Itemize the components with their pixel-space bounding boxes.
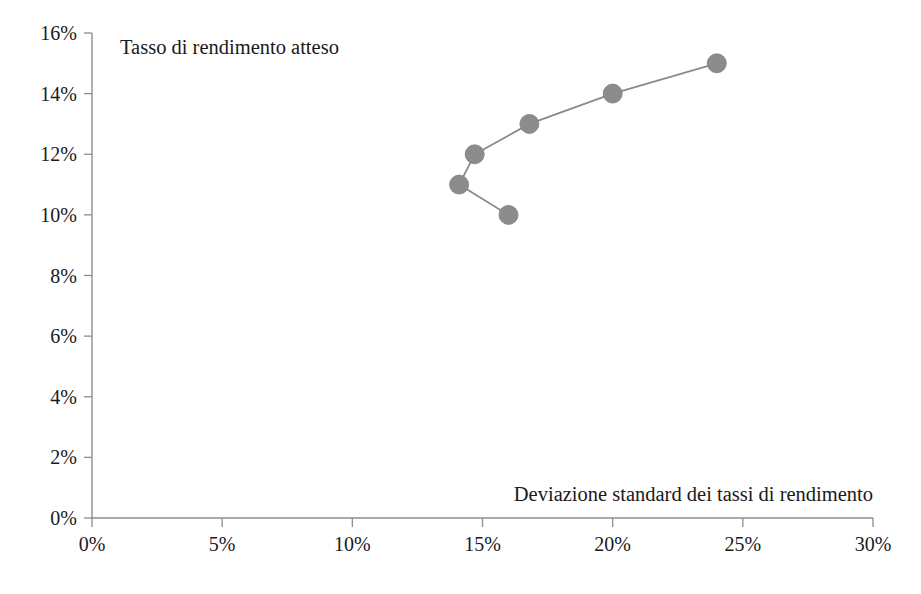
x-tick-label: 10% bbox=[334, 533, 371, 555]
x-tick-label: 5% bbox=[209, 533, 236, 555]
y-tick-label: 14% bbox=[40, 83, 77, 105]
x-tick-label: 25% bbox=[724, 533, 761, 555]
data-point[interactable] bbox=[465, 145, 484, 164]
data-point[interactable] bbox=[603, 84, 622, 103]
y-axis-ticks bbox=[84, 33, 92, 518]
y-tick-label: 8% bbox=[50, 265, 77, 287]
scatter-chart: 0%2%4%6%8%10%12%14%16% 0%5%10%15%20%25%3… bbox=[0, 0, 921, 594]
data-point[interactable] bbox=[499, 205, 518, 224]
x-axis-title: Deviazione standard dei tassi di rendime… bbox=[514, 483, 873, 505]
chart-container: 0%2%4%6%8%10%12%14%16% 0%5%10%15%20%25%3… bbox=[0, 0, 921, 594]
y-tick-label: 0% bbox=[50, 507, 77, 529]
x-tick-label: 15% bbox=[464, 533, 501, 555]
x-tick-label: 0% bbox=[79, 533, 106, 555]
x-axis-tick-labels: 0%5%10%15%20%25%30% bbox=[79, 533, 892, 555]
y-axis-tick-labels: 0%2%4%6%8%10%12%14%16% bbox=[40, 22, 77, 529]
x-tick-label: 20% bbox=[594, 533, 631, 555]
data-point[interactable] bbox=[520, 114, 539, 133]
y-tick-label: 10% bbox=[40, 204, 77, 226]
y-tick-label: 12% bbox=[40, 143, 77, 165]
y-tick-label: 4% bbox=[50, 386, 77, 408]
y-axis-title: Tasso di rendimento atteso bbox=[120, 36, 339, 58]
x-tick-label: 30% bbox=[855, 533, 892, 555]
series-markers bbox=[450, 54, 727, 225]
series-line bbox=[459, 63, 717, 215]
data-point[interactable] bbox=[707, 54, 726, 73]
y-tick-label: 16% bbox=[40, 22, 77, 44]
data-point[interactable] bbox=[450, 175, 469, 194]
y-tick-label: 2% bbox=[50, 446, 77, 468]
x-axis-ticks bbox=[92, 518, 873, 527]
y-tick-label: 6% bbox=[50, 325, 77, 347]
